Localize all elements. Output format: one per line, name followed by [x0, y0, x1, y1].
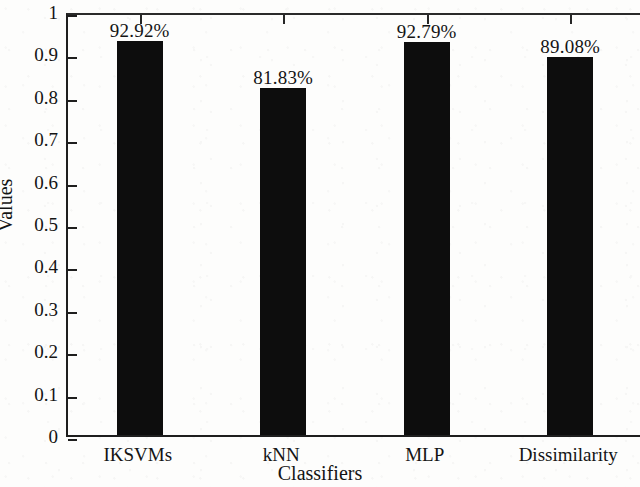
bar-dissimilarity[interactable]	[547, 57, 593, 435]
y-axis-tick-mark	[68, 100, 77, 102]
x-axis-tick-mark	[283, 15, 285, 24]
bar-knn[interactable]	[260, 88, 306, 435]
bar-chart-figure: Values 00.10.20.30.40.50.60.70.80.91 92.…	[0, 0, 640, 487]
y-axis-tick-label: 0.3	[34, 299, 58, 321]
y-axis-tick-mark	[68, 15, 77, 17]
y-axis-tick-label: 1	[49, 2, 59, 24]
y-axis-tick-label: 0.5	[34, 214, 58, 236]
y-axis-tick-mark	[68, 269, 77, 271]
y-axis-tick-mark	[68, 439, 77, 441]
y-axis-tick-mark	[68, 227, 77, 229]
y-axis-tick-mark	[68, 397, 77, 399]
bar-value-label: 92.79%	[397, 21, 457, 43]
x-axis-title: Classifiers	[0, 462, 640, 485]
bar-value-label: 92.92%	[110, 20, 170, 42]
x-axis-tick-mark	[570, 15, 572, 24]
y-axis-tick-mark	[68, 185, 77, 187]
y-axis-tick-label: 0.1	[34, 384, 58, 406]
bar-value-label: 81.83%	[253, 67, 313, 89]
bar-value-label: 89.08%	[540, 36, 600, 58]
y-axis-tick-label: 0.8	[34, 87, 58, 109]
y-axis-tick-mark	[68, 57, 77, 59]
y-axis-tick-label: 0.6	[34, 172, 58, 194]
y-axis-title: Values	[0, 179, 17, 232]
plot-area: 92.92%81.83%92.79%89.08%	[66, 13, 640, 437]
bar-mlp[interactable]	[404, 42, 450, 435]
y-axis-tick-label: 0.9	[34, 44, 58, 66]
y-axis-tick-mark	[68, 142, 77, 144]
y-axis-tick-mark	[68, 312, 77, 314]
bar-iksvms[interactable]	[117, 41, 163, 435]
y-axis-tick-label: 0.2	[34, 341, 58, 363]
y-axis-tick-label: 0.7	[34, 129, 58, 151]
y-axis-tick-label: 0.4	[34, 256, 58, 278]
y-axis-tick-mark	[68, 354, 77, 356]
